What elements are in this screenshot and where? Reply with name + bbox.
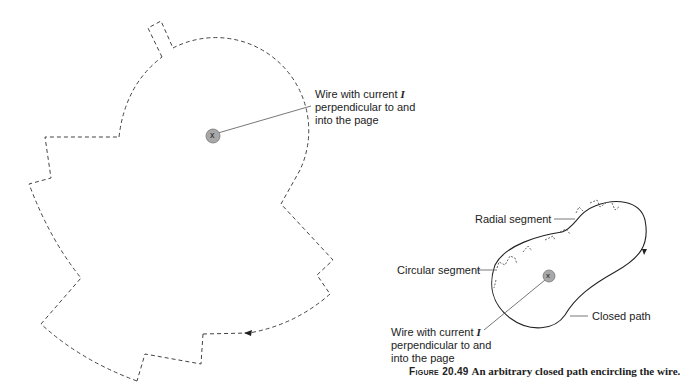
right-wire-label: Wire with current I perpendicular to and… [391, 326, 491, 365]
radial-segment-label: Radial segment [475, 213, 551, 226]
right-wire-leader-line [484, 280, 545, 330]
right-wire-label-line1: Wire with current [391, 326, 477, 338]
closed-path-label: Closed path [592, 310, 651, 323]
right-wire-label-line2: perpendicular to and [391, 339, 491, 352]
direction-arrow-left [244, 330, 252, 336]
figure-caption: Figure 20.49 An arbitrary closed path en… [409, 365, 680, 377]
left-wire-label-line1: Wire with current [315, 88, 401, 100]
figure-number: Figure 20.49 [409, 366, 469, 377]
left-wire-label-line2: perpendicular to and [315, 101, 415, 114]
right-wire-label-line3: into the page [391, 352, 491, 365]
left-wire-label: Wire with current I perpendicular to and… [315, 88, 415, 127]
right-wire-symbol: x [546, 269, 550, 282]
left-current-symbol: I [401, 88, 405, 100]
circular-segment-label: Circular segment [397, 264, 480, 277]
figure-caption-text: An arbitrary closed path encircling the … [471, 365, 680, 377]
left-stepped-path [29, 21, 333, 381]
left-wire-leader-line [218, 106, 311, 133]
left-wire-label-line3: into the page [315, 114, 415, 127]
left-wire-symbol: x [210, 129, 215, 142]
direction-arrow-right [642, 249, 647, 255]
right-current-symbol: I [477, 326, 481, 338]
